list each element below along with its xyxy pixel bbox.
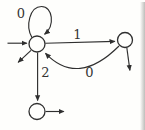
edge-label-zero-return: 0 <box>85 65 93 80</box>
edge-1-left-to-right <box>45 41 115 43</box>
edge-label-two: 2 <box>41 65 49 80</box>
edge-0-right-to-left-curve <box>46 46 120 69</box>
state-circle-bottom <box>29 104 45 120</box>
edge-label-one: 1 <box>73 27 81 42</box>
exit-arrow-right-state <box>127 48 130 71</box>
state-circle-right <box>118 33 133 48</box>
diagram-strokes <box>8 7 133 120</box>
automaton-diagram: 0 1 0 2 <box>0 0 145 130</box>
edge-label-self-loop: 0 <box>17 6 25 21</box>
exit-arrow-left-state <box>18 50 31 62</box>
state-circle-left <box>29 36 45 52</box>
automaton-canvas: 0 1 0 2 <box>0 0 145 130</box>
self-loop-edge <box>29 7 52 38</box>
